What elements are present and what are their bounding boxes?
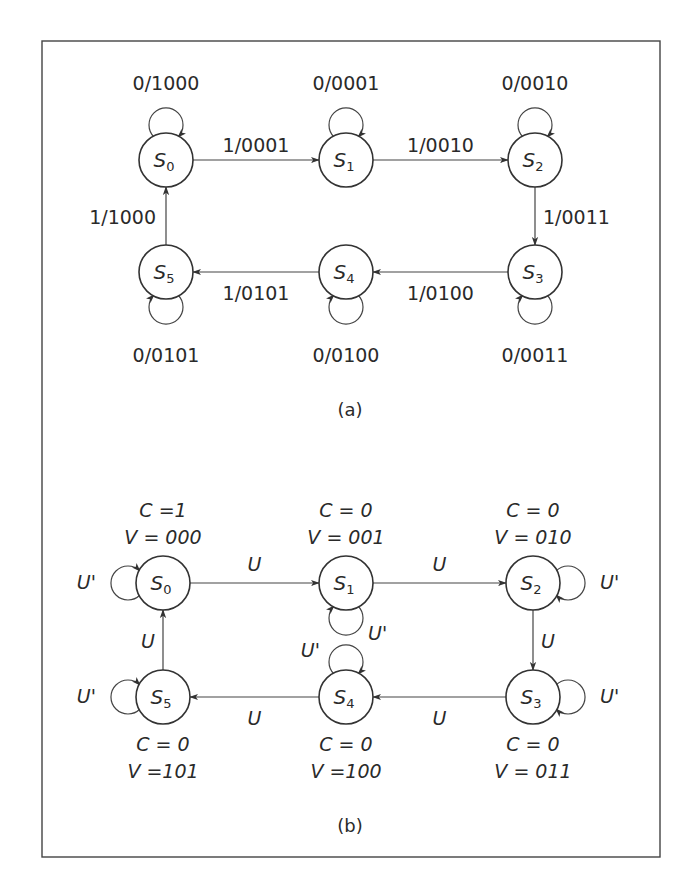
- state-S1: S1: [319, 133, 373, 187]
- output-c-label: C =1: [139, 499, 186, 521]
- output-c-label: C = 0: [506, 733, 559, 755]
- transition-label: 1/0100: [407, 282, 474, 304]
- transition-label: U: [141, 630, 155, 652]
- state-S0: S0C =1V = 000: [124, 499, 201, 610]
- state-S1: S1C = 0V = 001: [307, 499, 384, 610]
- diagram-b-moore: UUUUUUU'U'U'U'U'U'S0C =1V = 000S1C = 0V …: [77, 499, 619, 782]
- self-loop-label: 0/0010: [502, 72, 569, 94]
- state-S3: S3C = 0V = 011: [494, 670, 571, 782]
- self-loop-label: U': [301, 639, 320, 661]
- caption-b: (b): [337, 815, 362, 836]
- state-S3: S3: [508, 245, 562, 299]
- transition-label: 1/0001: [223, 134, 290, 156]
- self-loop-label: U': [77, 571, 96, 593]
- self-loop-label: U': [77, 685, 96, 707]
- state-diagram-figure: 1/00011/00101/00111/01001/01011/10000/10…: [0, 0, 700, 892]
- transition-label: U: [541, 630, 555, 652]
- output-v-label: V =101: [127, 760, 198, 782]
- output-c-label: C = 0: [319, 733, 372, 755]
- transition-label: U: [248, 707, 262, 729]
- output-v-label: V = 011: [494, 760, 571, 782]
- output-v-label: V = 001: [307, 526, 384, 548]
- state-S4: S4C = 0V =100: [310, 670, 381, 782]
- transition-label: 1/1000: [89, 206, 156, 228]
- transition-label: 1/0010: [407, 134, 474, 156]
- output-c-label: C = 0: [319, 499, 372, 521]
- self-loop-label: 0/0100: [313, 344, 380, 366]
- self-loop-label: 0/0011: [502, 344, 569, 366]
- self-loop-label: 0/0101: [133, 344, 200, 366]
- state-S5: S5C = 0V =101: [127, 670, 198, 782]
- state-S4: S4: [319, 245, 373, 299]
- output-c-label: C = 0: [136, 733, 189, 755]
- state-S5: S5: [139, 245, 193, 299]
- diagram-a-mealy: 1/00011/00101/00111/01001/01011/10000/10…: [89, 72, 610, 366]
- state-S2: S2: [508, 133, 562, 187]
- state-S0: S0: [139, 133, 193, 187]
- self-loop-label: U': [368, 622, 387, 644]
- self-loop-label: 0/1000: [133, 72, 200, 94]
- self-loop-label: 0/0001: [313, 72, 380, 94]
- caption-a: (a): [337, 399, 362, 420]
- output-v-label: V = 010: [494, 526, 571, 548]
- output-v-label: V = 000: [124, 526, 201, 548]
- self-loop-label: U': [600, 685, 619, 707]
- output-v-label: V =100: [310, 760, 381, 782]
- transition-label: U: [433, 707, 447, 729]
- transition-label: 1/0101: [223, 282, 290, 304]
- transition-label: 1/0011: [543, 206, 610, 228]
- self-loop-label: U': [600, 571, 619, 593]
- state-S2: S2C = 0V = 010: [494, 499, 571, 610]
- transition-label: U: [433, 553, 447, 575]
- transition-label: U: [248, 553, 262, 575]
- output-c-label: C = 0: [506, 499, 559, 521]
